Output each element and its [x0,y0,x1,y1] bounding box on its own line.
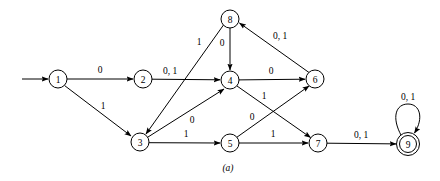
node-9-accepting[interactable]: 9 [397,133,420,156]
edge-label-4-to-6: 0 [269,66,274,76]
edge-label-7-to-9: 0, 1 [354,130,369,140]
node-2-label: 2 [141,75,146,85]
edge-5-to-7: 1 [239,129,308,143]
edge-label-3-to-4: 0 [190,115,195,125]
edge-label-9-self-loop: 0, 1 [401,92,416,102]
node-1-label: 1 [56,75,61,85]
edge-3-to-5: 1 [149,129,220,143]
node-3-label: 3 [138,138,143,148]
node-3[interactable]: 3 [131,133,149,151]
node-6-label: 6 [313,75,318,85]
node-9-label: 9 [406,140,411,150]
state-diagram-figure: 0 1 0, 1 1 0 0 1 [0,0,440,181]
edge-1-to-3: 1 [65,86,132,137]
node-5-label: 5 [228,139,233,149]
edge-label-1-to-3: 1 [101,101,106,111]
edge-label-4-to-7: 1 [262,91,267,101]
edge-label-2-to-4: 0, 1 [163,66,178,76]
node-8-label: 8 [228,15,233,25]
edge-label-8-to-3: 1 [197,37,202,47]
edge-label-1-to-2: 0 [98,65,103,75]
figure-caption: (a) [222,163,233,174]
edge-9-self-loop: 0, 1 [396,92,420,136]
node-4-label: 4 [228,76,233,86]
edge-4-to-6: 0 [239,66,305,80]
node-4[interactable]: 4 [221,71,239,89]
node-6[interactable]: 6 [306,70,324,88]
edge-1-to-2: 0 [67,65,133,79]
edge-8-to-4: 0 [220,28,230,70]
edge-label-5-to-7: 1 [271,129,276,139]
edge-label-3-to-5: 1 [184,129,189,139]
edge-label-5-to-6: 0 [250,112,255,122]
edge-7-to-9: 0, 1 [327,130,396,144]
node-7-label: 7 [316,139,321,149]
edge-label-6-to-8: 0, 1 [273,31,288,41]
state-diagram-canvas: 0 1 0, 1 1 0 0 1 [0,0,440,181]
node-8[interactable]: 8 [221,10,239,28]
node-1[interactable]: 1 [49,70,67,88]
node-5[interactable]: 5 [221,134,239,152]
node-2[interactable]: 2 [134,70,152,88]
edge-6-to-8: 0, 1 [240,23,310,73]
node-7[interactable]: 7 [309,134,327,152]
edge-label-8-to-4: 0 [220,38,225,48]
